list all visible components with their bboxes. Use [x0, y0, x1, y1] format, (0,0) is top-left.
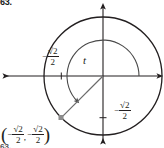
x-coordinate-fraction: √22	[47, 46, 58, 68]
point-y-denominator: 2	[32, 135, 43, 145]
point-marker	[59, 115, 64, 120]
problem-number: 63.	[0, 0, 12, 7]
point-x-fraction: √22	[12, 124, 23, 146]
footer-cut-text: 63.	[0, 143, 11, 148]
unit-circle-figure: 63. t −√22 −√22 (−√22,−√22) 63.	[0, 0, 164, 148]
point-comma: ,	[24, 133, 27, 142]
x-coordinate-label: −√22	[42, 46, 59, 68]
x-coordinate-denominator: 2	[47, 57, 58, 67]
point-x-denominator: 2	[12, 135, 23, 145]
x-coordinate-numerator: √2	[47, 46, 58, 57]
y-coordinate-label: −√22	[114, 100, 131, 122]
point-y-numerator: √2	[32, 124, 43, 135]
y-coordinate-denominator: 2	[119, 111, 130, 121]
angle-label: t	[83, 55, 86, 66]
point-x-numerator: √2	[12, 124, 23, 135]
point-y-fraction: √22	[32, 124, 43, 146]
close-paren: )	[44, 127, 50, 143]
y-coordinate-numerator: √2	[119, 100, 130, 111]
y-coordinate-fraction: √22	[119, 100, 130, 122]
